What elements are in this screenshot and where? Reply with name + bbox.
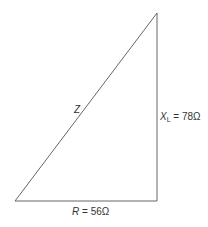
r-equals: =: [79, 206, 90, 217]
r-value: 56Ω: [91, 206, 110, 217]
label-r: R = 56Ω: [72, 206, 109, 218]
label-z: Z: [74, 104, 80, 116]
xl-symbol: X: [160, 111, 167, 122]
hypotenuse-z: [15, 13, 157, 201]
xl-value: 78Ω: [182, 111, 201, 122]
xl-equals: =: [171, 111, 182, 122]
label-xl: XL = 78Ω: [160, 111, 201, 126]
